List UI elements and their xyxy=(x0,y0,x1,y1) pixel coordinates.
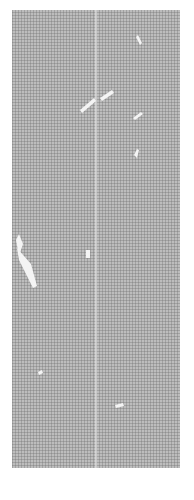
ecg-strip xyxy=(0,0,194,500)
